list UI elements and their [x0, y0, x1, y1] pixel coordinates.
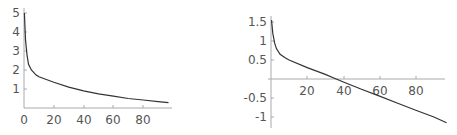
right-chart: 1.5 1 0.5 -0.5 -1 20 40 60 80	[244, 15, 447, 128]
left-chart: 1 2 3 4 5 0 20 40 60 80	[12, 6, 172, 127]
right-x-tick-80: 80	[408, 84, 423, 98]
charts-canvas: 1 2 3 4 5 0 20 40 60 80 1.5 1 0.5 -0.5 -…	[0, 0, 457, 135]
right-y-tick-neg0.5: -0.5	[244, 91, 267, 105]
left-y-tick-1: 1	[12, 82, 20, 96]
left-y-tick-4: 4	[12, 25, 20, 39]
right-y-tick-neg1: -1	[255, 110, 267, 124]
left-y-tick-5: 5	[12, 6, 20, 20]
right-y-tick-0.5: 0.5	[248, 53, 267, 67]
left-y-tick-2: 2	[12, 63, 20, 77]
left-x-tick-80: 80	[135, 113, 150, 127]
right-x-tick-40: 40	[336, 84, 351, 98]
left-x-tick-0: 0	[20, 113, 28, 127]
right-curve	[272, 20, 447, 123]
left-x-tick-40: 40	[76, 113, 91, 127]
right-y-tick-1.5: 1.5	[248, 15, 267, 29]
left-y-tick-3: 3	[12, 44, 20, 58]
left-x-tick-20: 20	[46, 113, 61, 127]
left-x-tick-60: 60	[105, 113, 120, 127]
right-x-tick-20: 20	[299, 84, 314, 98]
left-curve	[24, 13, 168, 103]
right-y-tick-1: 1	[259, 34, 267, 48]
